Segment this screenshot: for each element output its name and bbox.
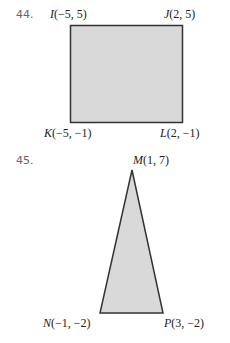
triangle-mnp <box>100 170 163 313</box>
vertex-label-n: N(−1, −2) <box>43 316 91 331</box>
vertex-label-i: I(−5, 5) <box>50 7 87 22</box>
rectangle-ijkl <box>71 26 183 123</box>
vertex-label-k: K(−5, −1) <box>44 126 92 141</box>
vertex-label-p: P(3, −2) <box>164 316 204 331</box>
vertex-label-j: J(2, 5) <box>164 7 195 22</box>
vertex-label-l: L(2, −1) <box>160 126 199 141</box>
vertex-label-m: M(1, 7) <box>133 153 169 168</box>
problem-number-44: 44. <box>16 8 34 21</box>
figures-canvas <box>0 0 230 343</box>
problem-number-45: 45. <box>16 154 34 167</box>
